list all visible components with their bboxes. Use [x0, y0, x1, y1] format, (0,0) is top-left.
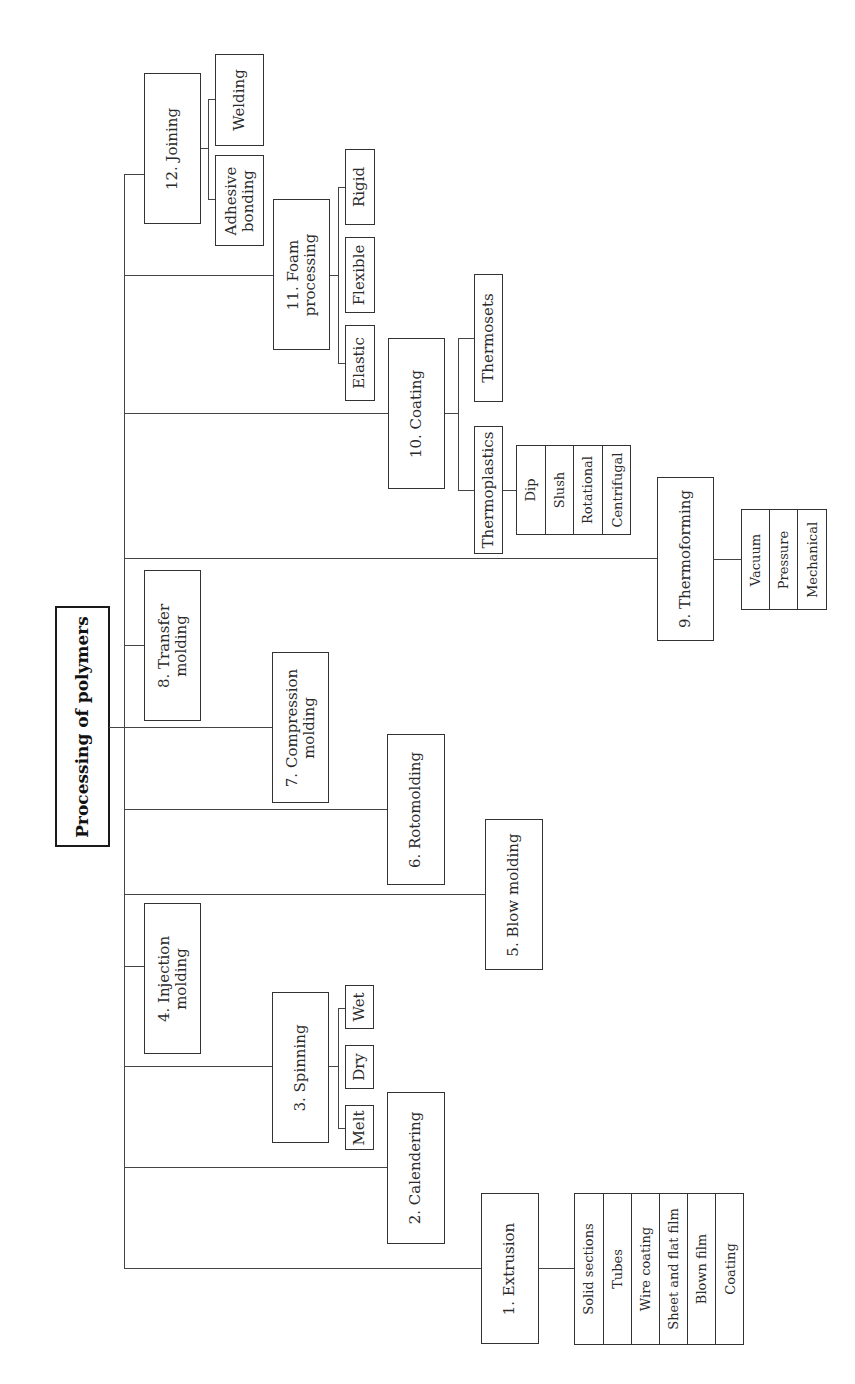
branch-spinning: [124, 1066, 273, 1067]
branch-coating: [124, 413, 389, 414]
leaf-flexible: Flexible: [345, 237, 375, 313]
coating-connector: [445, 413, 459, 414]
branch-foam: [124, 275, 274, 276]
node-rotomolding: 6. Rotomolding: [387, 734, 445, 885]
node-blow-molding: 5. Blow molding: [485, 819, 543, 970]
leaf-label: Elastic: [351, 337, 368, 389]
subtype-blown-film: Blown film: [694, 1234, 709, 1304]
leaf-label: Adhesive bonding: [222, 166, 257, 235]
leaf-melt: Melt: [345, 1105, 374, 1150]
node-label: 2. Calendering: [407, 1112, 424, 1225]
extrusion-subtypes: Solid sections Tubes Wire coating Sheet …: [574, 1193, 744, 1345]
node-label: 12. Joining: [164, 107, 181, 189]
node-spinning: 3. Spinning: [272, 992, 329, 1143]
subtype-slush: Slush: [552, 472, 567, 508]
node-compression-molding: 7. Compression molding: [272, 652, 329, 803]
subtype-cell: Dip: [517, 446, 546, 534]
leaf-label: Flexible: [351, 245, 368, 306]
branch-blow: [124, 894, 486, 895]
thermoforming-connector: [713, 559, 742, 560]
node-label: 11. Foam processing: [284, 233, 319, 316]
subtype-cell: Mechanical: [798, 510, 828, 609]
leaf-label: Thermoplastics: [480, 432, 497, 549]
node-extrusion: 1. Extrusion: [481, 1193, 539, 1344]
node-label: 3. Spinning: [292, 1024, 309, 1111]
subtype-wire-coating: Wire coating: [638, 1227, 653, 1311]
subtype-mechanical: Mechanical: [806, 521, 821, 597]
leaf-welding: Welding: [215, 54, 264, 146]
coating-to-thermosets: [458, 338, 475, 339]
subtype-cell: Solid sections: [575, 1194, 604, 1344]
root-connector: [109, 727, 125, 728]
node-label: 10. Coating: [408, 369, 425, 457]
leaf-label: Melt: [351, 1110, 368, 1145]
root-node: Processing of polymers: [55, 606, 110, 847]
subtype-cell: Sheet and flat film: [660, 1194, 688, 1344]
node-label: 7. Compression molding: [283, 668, 318, 786]
thermoplastics-connector: [503, 490, 517, 491]
node-label: 4. Injection molding: [155, 935, 190, 1021]
subtype-pressure: Pressure: [776, 530, 791, 588]
thermoplastics-subtypes: Dip Slush Rotational Centrifugal: [516, 445, 631, 535]
leaf-label: Dry: [351, 1053, 368, 1081]
subtype-dip: Dip: [524, 479, 539, 502]
subtype-cell: Pressure: [770, 510, 798, 609]
branch-extrusion: [124, 1268, 482, 1269]
trunk-line: [124, 174, 125, 1269]
node-foam-processing: 11. Foam processing: [273, 199, 330, 350]
spinning-subline: [338, 1008, 339, 1128]
leaf-rigid: Rigid: [345, 149, 375, 225]
leaf-wet: Wet: [345, 985, 374, 1029]
foam-subline: [338, 187, 339, 363]
subtype-cell: Vacuum: [742, 510, 770, 609]
extrusion-connector: [539, 1268, 574, 1269]
subtype-centrifugal: Centrifugal: [610, 452, 625, 527]
root-title: Processing of polymers: [73, 616, 93, 837]
subtype-solid-sections: Solid sections: [582, 1223, 597, 1314]
subtype-cell: Slush: [546, 446, 574, 534]
polymer-processing-diagram: Processing of polymers 1. Extrusion Soli…: [0, 0, 855, 1384]
coating-to-thermoplastics: [458, 490, 475, 491]
subtype-cell: Tubes: [604, 1194, 632, 1344]
leaf-label: Rigid: [351, 167, 368, 207]
node-transfer-molding: 8. Transfer molding: [144, 570, 201, 721]
leaf-label: Wet: [351, 992, 368, 1021]
coating-subline: [458, 338, 459, 490]
node-thermosets: Thermosets: [474, 274, 503, 402]
subtype-tubes: Tubes: [610, 1249, 625, 1289]
branch-rotomolding: [124, 809, 388, 810]
branch-compression: [124, 727, 273, 728]
node-label: 5. Blow molding: [505, 833, 522, 956]
subtype-sheet-flat-film: Sheet and flat film: [666, 1208, 681, 1330]
subtype-cell: Wire coating: [632, 1194, 660, 1344]
node-label: 6. Rotomolding: [407, 751, 424, 867]
node-label: 1. Extrusion: [501, 1222, 518, 1315]
leaf-dry: Dry: [345, 1045, 374, 1089]
branch-thermoforming: [124, 558, 658, 559]
node-label: 9. Thermoforming: [677, 490, 694, 628]
subtype-rotational: Rotational: [581, 456, 596, 524]
subtype-cell: Rotational: [574, 446, 603, 534]
leaf-label: Thermosets: [480, 293, 497, 382]
node-calendering: 2. Calendering: [387, 1092, 445, 1244]
node-coating: 10. Coating: [388, 338, 445, 489]
subtype-cell: Coating: [716, 1194, 745, 1344]
node-joining: 12. Joining: [144, 73, 201, 224]
subtype-cell: Centrifugal: [603, 446, 632, 534]
subtype-coating: Coating: [723, 1243, 738, 1295]
leaf-elastic: Elastic: [345, 325, 375, 401]
node-thermoplastics: Thermoplastics: [474, 426, 503, 554]
subtype-cell: Blown film: [688, 1194, 716, 1344]
branch-injection: [124, 966, 145, 967]
node-thermoforming: 9. Thermoforming: [657, 477, 714, 641]
subtype-vacuum: Vacuum: [748, 533, 763, 585]
joining-subline: [208, 99, 209, 200]
node-injection-molding: 4. Injection molding: [144, 903, 201, 1054]
leaf-label: Welding: [231, 69, 248, 131]
node-label: 8. Transfer molding: [155, 603, 190, 687]
leaf-adhesive-bonding: Adhesive bonding: [215, 155, 264, 246]
branch-transfer: [124, 645, 145, 646]
thermoforming-subtypes: Vacuum Pressure Mechanical: [741, 509, 827, 610]
branch-calendering: [124, 1167, 388, 1168]
branch-joining: [124, 174, 145, 175]
